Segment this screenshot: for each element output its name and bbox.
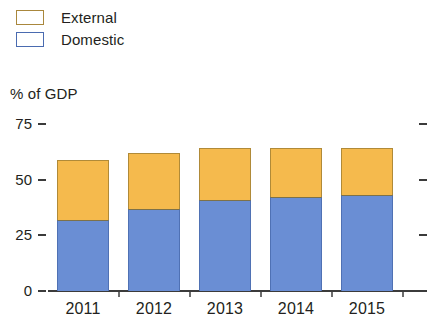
bar-segment-external-2014[interactable] bbox=[270, 148, 322, 197]
x-axis-label-2011: 2011 bbox=[48, 299, 118, 319]
y-axis-tick-mark-right bbox=[419, 123, 427, 125]
y-axis-tick-mark bbox=[38, 290, 46, 292]
x-axis-label-2012: 2012 bbox=[119, 299, 189, 319]
bar-segment-external-2015[interactable] bbox=[341, 148, 393, 195]
bar-segment-domestic-2011[interactable] bbox=[57, 220, 109, 291]
bar-2015[interactable] bbox=[341, 148, 393, 291]
y-axis-tick-mark-right bbox=[419, 234, 427, 236]
y-axis-tick-mark-right bbox=[419, 290, 427, 292]
y-axis-tick-25: 25 bbox=[0, 227, 44, 242]
y-axis-tick-label: 25 bbox=[15, 227, 32, 242]
x-axis-label-2014: 2014 bbox=[261, 299, 331, 319]
bar-segment-domestic-2012[interactable] bbox=[128, 209, 180, 291]
x-axis-label-2015: 2015 bbox=[332, 299, 402, 319]
bar-2012[interactable] bbox=[128, 153, 180, 291]
y-axis-tick-label: 50 bbox=[15, 172, 32, 187]
bar-segment-external-2011[interactable] bbox=[57, 160, 109, 220]
bar-2014[interactable] bbox=[270, 148, 322, 291]
x-axis-tick-mark bbox=[402, 292, 404, 297]
chart-plot-area: 0255075 20112012201320142015 bbox=[0, 0, 429, 325]
y-axis-tick-label: 75 bbox=[15, 116, 32, 131]
y-axis-tick-mark bbox=[38, 234, 46, 236]
y-axis-tick-mark bbox=[38, 179, 46, 181]
bar-segment-domestic-2015[interactable] bbox=[341, 195, 393, 291]
x-axis-label-2013: 2013 bbox=[190, 299, 260, 319]
bar-segment-domestic-2013[interactable] bbox=[199, 200, 251, 291]
y-axis-tick-mark bbox=[38, 123, 46, 125]
x-axis-tick-mark bbox=[189, 292, 191, 297]
x-axis-tick-mark bbox=[118, 292, 120, 297]
y-axis-tick-50: 50 bbox=[0, 172, 44, 187]
bar-segment-external-2012[interactable] bbox=[128, 153, 180, 209]
bar-segment-external-2013[interactable] bbox=[199, 148, 251, 199]
x-axis-tick-mark bbox=[331, 292, 333, 297]
y-axis-tick-label: 0 bbox=[24, 283, 32, 298]
x-axis-tick-mark bbox=[260, 292, 262, 297]
bar-2013[interactable] bbox=[199, 148, 251, 291]
y-axis-tick-mark-right bbox=[419, 179, 427, 181]
y-axis-tick-0: 0 bbox=[0, 283, 44, 298]
bar-segment-domestic-2014[interactable] bbox=[270, 197, 322, 291]
y-axis-tick-75: 75 bbox=[0, 116, 44, 131]
bar-2011[interactable] bbox=[57, 160, 109, 291]
